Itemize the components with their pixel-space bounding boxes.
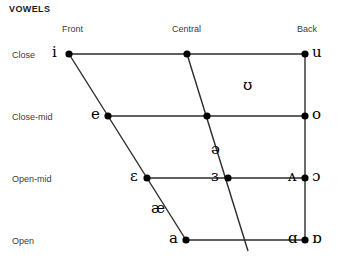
vowel-dot bbox=[104, 112, 111, 119]
vowel-dot bbox=[183, 50, 190, 57]
vowel-dot bbox=[301, 236, 308, 243]
vowel-symbol-ɒ: ɒ bbox=[312, 231, 322, 246]
vowel-dots bbox=[65, 50, 308, 243]
vowel-symbol-u: u bbox=[312, 45, 322, 60]
vowel-dot bbox=[65, 50, 72, 57]
vowel-symbol-ʊ: ʊ bbox=[243, 78, 252, 93]
vowel-dot bbox=[224, 174, 231, 181]
vowel-symbol-ɔ: ɔ bbox=[312, 169, 320, 184]
trapezoid-edges bbox=[69, 54, 305, 251]
vowel-symbol-ɑ: ɑ bbox=[288, 231, 298, 246]
vowel-chart: VOWELS Front Central Back Close Close-mi… bbox=[0, 0, 346, 261]
vowel-dot bbox=[143, 174, 150, 181]
front-diagonal bbox=[69, 54, 186, 240]
vowel-dot bbox=[301, 50, 308, 57]
vowel-symbol-e: e bbox=[91, 107, 100, 122]
vowel-dot bbox=[182, 236, 189, 243]
vowel-symbol-a: a bbox=[169, 231, 178, 246]
vowel-trapezoid-grid bbox=[0, 0, 346, 261]
vowel-symbol-ɜ: ɜ bbox=[211, 169, 219, 184]
vowel-symbol-ɛ: ɛ bbox=[130, 169, 138, 184]
vowel-dot bbox=[203, 112, 210, 119]
vowel-symbol-æ: æ bbox=[151, 201, 165, 216]
vowel-symbol-i: i bbox=[52, 45, 57, 60]
vowel-symbol-ʌ: ʌ bbox=[288, 169, 296, 184]
vowel-symbol-o: o bbox=[312, 107, 321, 122]
vowel-symbol-ə: ə bbox=[211, 142, 220, 157]
vowel-dot bbox=[301, 174, 308, 181]
vowel-dot bbox=[301, 112, 308, 119]
